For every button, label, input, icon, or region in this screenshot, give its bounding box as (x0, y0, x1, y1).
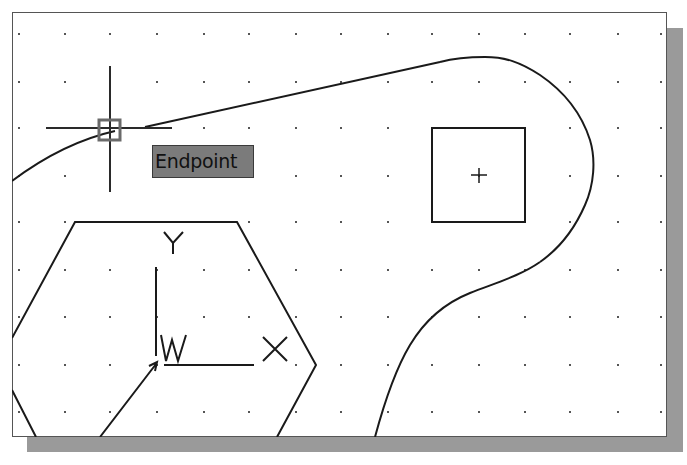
grid-dot (478, 81, 480, 83)
grid-dot (617, 269, 619, 271)
grid-dot (340, 411, 342, 413)
grid-dot (569, 81, 571, 83)
grid-dot (617, 33, 619, 35)
osnap-tooltip: Endpoint (152, 145, 254, 178)
grid-dot (569, 316, 571, 318)
grid-dot (660, 411, 662, 413)
grid-dot (617, 127, 619, 129)
ucs-x-letter (263, 337, 287, 361)
grid-dot (617, 81, 619, 83)
grid-dot (387, 33, 389, 35)
grid-dot (64, 221, 66, 223)
grid-dot (524, 411, 526, 413)
grid-dot (18, 411, 20, 413)
grid-dot (387, 127, 389, 129)
grid-dot (156, 411, 158, 413)
grid-dot (109, 316, 111, 318)
grid-dot (340, 269, 342, 271)
grid-dot (431, 269, 433, 271)
grid-dot (248, 127, 250, 129)
grid-dot (431, 364, 433, 366)
grid-dot (569, 364, 571, 366)
grid-dot (387, 81, 389, 83)
grid-dot (340, 127, 342, 129)
grid-dot (18, 316, 20, 318)
grid-dot (617, 364, 619, 366)
grid-dot (295, 221, 297, 223)
grid-dot (660, 127, 662, 129)
ucs-w-letter (161, 335, 186, 361)
grid-dot (478, 364, 480, 366)
grid-dot (569, 221, 571, 223)
right-arc[interactable] (440, 57, 593, 262)
grid-dot (18, 81, 20, 83)
grid-dot (203, 33, 205, 35)
grid-dot (203, 269, 205, 271)
grid-dot (203, 411, 205, 413)
grid-dot (569, 269, 571, 271)
grid-dot (660, 221, 662, 223)
grid-dot (431, 411, 433, 413)
grid-dot (617, 411, 619, 413)
grid-dot (387, 316, 389, 318)
drawing-canvas[interactable] (0, 0, 687, 465)
grid-dot (478, 316, 480, 318)
grid-dot (431, 81, 433, 83)
grid-dot (617, 316, 619, 318)
grid-dot (524, 316, 526, 318)
grid-dot (387, 364, 389, 366)
grid-dot (18, 33, 20, 35)
grid-dot (109, 411, 111, 413)
grid-dot (524, 364, 526, 366)
grid-dot (660, 33, 662, 35)
grid-dot (569, 411, 571, 413)
ucs-y-letter (164, 232, 183, 254)
grid-dot (340, 175, 342, 177)
grid-dot (660, 269, 662, 271)
grid-dot (248, 411, 250, 413)
grid-dot (660, 364, 662, 366)
grid-dot (295, 81, 297, 83)
grid-dot (340, 33, 342, 35)
grid-dot (248, 269, 250, 271)
grid-dot (617, 221, 619, 223)
diagonal-line[interactable] (145, 62, 440, 127)
grid-dot (295, 33, 297, 35)
hexagon[interactable] (12, 222, 316, 437)
grid-dot (248, 316, 250, 318)
grid-dot (295, 127, 297, 129)
grid-dot (295, 175, 297, 177)
grid-dot (660, 316, 662, 318)
grid-dot (524, 33, 526, 35)
grid-dot (431, 33, 433, 35)
grid-dot (387, 175, 389, 177)
grid-dot (109, 33, 111, 35)
s-curve[interactable] (375, 262, 540, 437)
grid-dot (478, 33, 480, 35)
grid-dot (295, 364, 297, 366)
grid-dot (569, 127, 571, 129)
grid-dot (340, 221, 342, 223)
grid-dot (617, 175, 619, 177)
grid-dot (64, 33, 66, 35)
grid-dot (295, 316, 297, 318)
grid-dot (248, 81, 250, 83)
grid-dot (248, 221, 250, 223)
grid-dot (569, 33, 571, 35)
ucs-arrow (100, 362, 157, 437)
grid-dot (524, 81, 526, 83)
grid-dot (203, 316, 205, 318)
grid-dot (64, 316, 66, 318)
grid-dot (660, 81, 662, 83)
grid-dot (18, 364, 20, 366)
grid-dot (340, 316, 342, 318)
grid-dot (64, 81, 66, 83)
grid-dot (387, 411, 389, 413)
grid-dot (109, 364, 111, 366)
grid-dot (478, 411, 480, 413)
grid-dot (340, 364, 342, 366)
grid-dot (660, 175, 662, 177)
grid-dot (387, 221, 389, 223)
grid-dot (18, 221, 20, 223)
grid-dot (295, 411, 297, 413)
